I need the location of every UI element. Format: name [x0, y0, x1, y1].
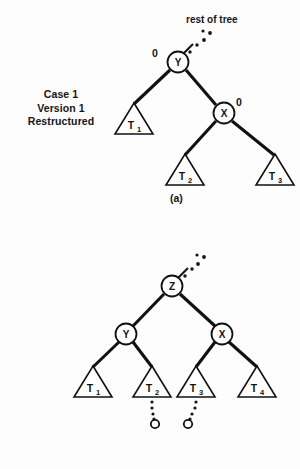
- rest-of-tree-dots-b: [183, 253, 206, 277]
- figure-canvas: T 1 T 2 T 3 Y X rest of tre: [0, 0, 300, 469]
- tree-node-x-b: X: [212, 324, 233, 345]
- balance-label-y-a: 0: [152, 47, 158, 59]
- svg-text:1: 1: [137, 125, 141, 134]
- balance-label-x-a: 0: [236, 96, 242, 108]
- svg-text:2: 2: [155, 388, 159, 397]
- svg-text:T: T: [128, 119, 135, 131]
- edge-z-to-x: [180, 294, 215, 326]
- case-line-1-a: Case 1: [5, 88, 117, 102]
- rest-of-tree-dots-a: [188, 29, 212, 53]
- subtree-triangle-t2: T 2: [166, 154, 204, 185]
- subtree-triangle-t4-b: T 4: [238, 366, 276, 397]
- subtree-triangle-t1-b: T 1: [74, 366, 112, 397]
- tree-node-z: Z: [162, 276, 183, 297]
- subfigure-caption-a: (a): [170, 192, 183, 204]
- edge-y-to-t1-b: [93, 342, 119, 367]
- edge-x-to-t3: [232, 121, 274, 155]
- svg-text:T: T: [179, 170, 186, 182]
- svg-text:X: X: [221, 108, 228, 119]
- empty-node-left: [151, 420, 159, 428]
- panel-b: T 1 T 2 T 3 T 4: [0, 228, 300, 469]
- edge-x-to-t3-b: [196, 342, 215, 367]
- edge-x-to-t2: [185, 121, 216, 155]
- empty-node-right: [184, 420, 192, 428]
- edge-x-to-t4-b: [229, 342, 257, 367]
- tree-node-x: X: [214, 103, 235, 124]
- dotted-link-t3-to-empty: [188, 400, 197, 420]
- svg-text:Y: Y: [175, 57, 182, 68]
- svg-text:T: T: [87, 382, 94, 394]
- svg-text:T: T: [251, 382, 258, 394]
- svg-text:Z: Z: [169, 281, 175, 292]
- subtree-triangle-t3-b: T 3: [177, 366, 215, 397]
- case-description-a: Case 1 Version 1 Restructured: [5, 88, 117, 129]
- svg-text:X: X: [219, 329, 226, 340]
- panel-b-graphics: T 1 T 2 T 3 T 4: [0, 228, 300, 469]
- case-line-3-a: Restructured: [5, 115, 117, 129]
- edge-y-to-x: [186, 70, 216, 105]
- edge-y-to-t1: [134, 70, 170, 104]
- svg-text:2: 2: [188, 176, 192, 185]
- case-line-2-a: Version 1: [5, 102, 117, 116]
- edge-z-to-y: [133, 294, 164, 326]
- panel-a: T 1 T 2 T 3 Y X rest of tre: [0, 0, 300, 228]
- edge-y-to-t2-b: [133, 342, 152, 367]
- svg-text:T: T: [146, 382, 153, 394]
- tree-node-y-b: Y: [116, 324, 137, 345]
- subtree-triangle-t2-b: T 2: [133, 366, 171, 397]
- svg-text:Y: Y: [123, 329, 130, 340]
- rest-of-tree-label-a: rest of tree: [186, 14, 238, 25]
- subtree-triangle-t3: T 3: [256, 154, 294, 185]
- svg-text:T: T: [190, 382, 197, 394]
- svg-text:3: 3: [278, 176, 282, 185]
- tree-node-y: Y: [168, 52, 189, 73]
- svg-text:T: T: [269, 170, 276, 182]
- subtree-triangle-t1: T 1: [115, 103, 153, 134]
- dotted-link-t2-to-empty: [150, 400, 155, 420]
- svg-text:1: 1: [96, 388, 100, 397]
- svg-text:3: 3: [199, 388, 203, 397]
